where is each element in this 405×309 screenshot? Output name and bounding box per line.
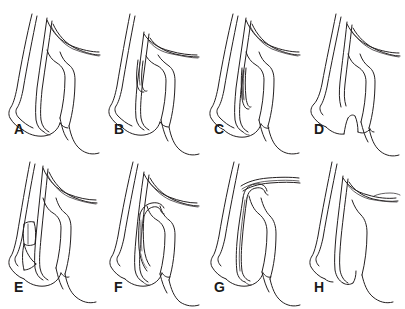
panel-label-d: D [314,122,324,136]
panel-label-a: A [14,122,24,136]
panel-label-c: C [214,122,224,136]
panel-label-g: G [214,280,225,294]
panel-label-f: F [114,280,123,294]
panel-label-b: B [114,122,124,136]
figure-container: A B [0,0,405,309]
panel-label-h: H [314,280,324,294]
panel-label-e: E [14,280,23,294]
